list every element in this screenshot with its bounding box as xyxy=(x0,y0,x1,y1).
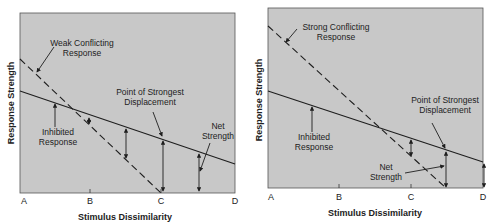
x-tick-a: A xyxy=(21,196,27,206)
x-tick-d: D xyxy=(232,196,239,206)
x-tick-c: C xyxy=(408,192,415,202)
y-axis-label: Response Strength xyxy=(6,62,16,145)
x-tick-c: C xyxy=(158,196,165,206)
displacement-diagram: Weak ConflictingResponse InhibitedRespon… xyxy=(0,0,490,224)
displacement-label: Point of StrongestDisplacement xyxy=(116,87,184,107)
x-axis-label: Stimulus Dissimilarity xyxy=(328,208,422,218)
x-tick-b: B xyxy=(336,192,342,202)
x-axis-label: Stimulus Dissimilarity xyxy=(78,212,172,222)
inhibited-label: InhibitedResponse xyxy=(39,127,78,147)
x-tick-a: A xyxy=(268,192,274,202)
panel-strong-conflict: Strong ConflictingResponse InhibitedResp… xyxy=(254,8,487,218)
displacement-label: Point of StrongestDisplacement xyxy=(411,95,479,115)
inhibited-label: InhibitedResponse xyxy=(295,132,334,152)
x-tick-b: B xyxy=(87,196,93,206)
panel-weak-conflict: Weak ConflictingResponse InhibitedRespon… xyxy=(6,13,239,222)
y-axis-label: Response Strength xyxy=(254,59,264,142)
x-tick-d: D xyxy=(480,192,487,202)
